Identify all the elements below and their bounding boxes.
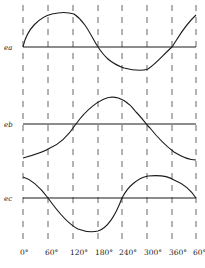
x-tick-label-6: 360° xyxy=(169,248,187,257)
waveform-eb: eb xyxy=(4,97,196,160)
x-tick-label-5: 300° xyxy=(144,248,162,257)
ea-label: ea xyxy=(4,44,12,52)
waveform-ec: ec xyxy=(4,176,196,232)
ec-label: ec xyxy=(4,195,12,203)
x-tick-label-7: 60° xyxy=(193,248,205,257)
waveform-ea: ea xyxy=(4,13,196,71)
x-tick-label-3: 180° xyxy=(95,248,113,257)
ea-curve xyxy=(23,13,196,71)
waveform-canvas: eaebec0°60°120°180°240°300°360°60° xyxy=(0,0,205,268)
x-tick-label-2: 120° xyxy=(70,248,88,257)
ec-curve xyxy=(23,176,196,232)
x-tick-label-4: 240° xyxy=(119,248,137,257)
eb-curve xyxy=(23,97,196,160)
x-tick-label-0: 0° xyxy=(20,248,29,257)
x-tick-label-1: 60° xyxy=(45,248,59,257)
three-phase-waveform-diagram: eaebec0°60°120°180°240°300°360°60° xyxy=(0,0,205,268)
eb-label: eb xyxy=(4,121,13,129)
